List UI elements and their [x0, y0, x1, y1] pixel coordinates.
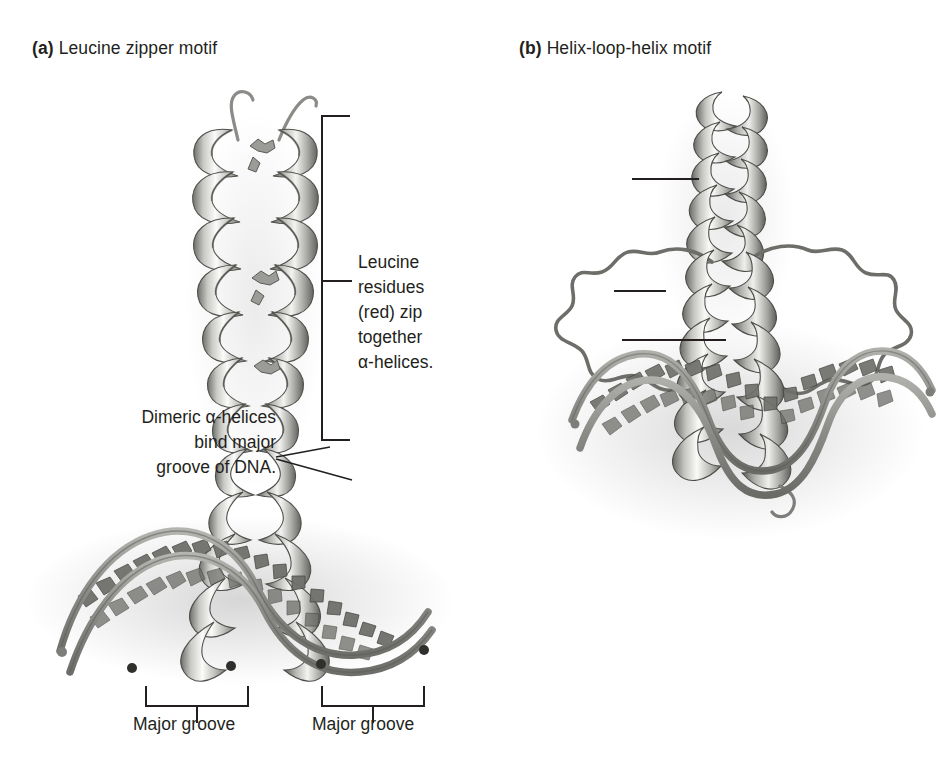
helix-loop-helix-artwork — [480, 0, 952, 771]
major-groove-label-right: Major groove — [312, 712, 414, 737]
leucine-zipper-artwork — [0, 0, 480, 771]
panel-b: (b) Helix-loop-helix motif — [480, 0, 952, 771]
figure-root: (a) Leucine zipper motif — [0, 0, 952, 771]
leucine-residues-annotation: Leucine residues (red) zip together α-he… — [358, 250, 480, 375]
dimeric-helices-annotation: Dimeric α-helices bind major groove of D… — [18, 405, 276, 480]
panel-a: (a) Leucine zipper motif — [0, 0, 480, 771]
major-groove-label-left: Major groove — [133, 712, 235, 737]
leucine-bracket-icon — [322, 116, 352, 440]
